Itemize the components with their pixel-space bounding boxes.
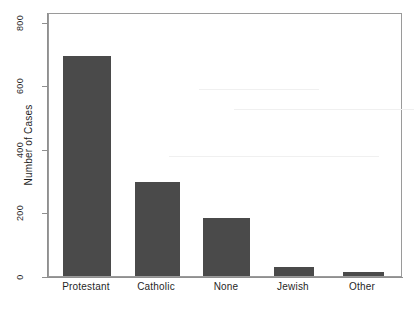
x-tick-label-catholic: Catholic bbox=[137, 281, 175, 292]
y-tick-label-0-container: 0 bbox=[0, 277, 40, 278]
y-tick-label-600: 600 bbox=[15, 78, 25, 94]
chart-screenshot: Number of Cases 800 600 400 200 0 bbox=[0, 0, 416, 310]
y-tick-label-600-container: 600 bbox=[0, 86, 40, 87]
bar-protestant bbox=[63, 56, 111, 276]
x-axis-line bbox=[48, 277, 403, 278]
plot-frame bbox=[48, 13, 402, 277]
y-tick-label-200-container: 200 bbox=[0, 213, 40, 214]
x-tick-label-protestant: Protestant bbox=[62, 281, 110, 292]
scan-artifact bbox=[169, 156, 379, 157]
bar-jewish bbox=[274, 267, 314, 276]
y-tick-label-0: 0 bbox=[15, 274, 25, 279]
plot-area bbox=[49, 14, 401, 276]
y-tick-label-200: 200 bbox=[15, 205, 25, 221]
y-tick-label-800: 800 bbox=[15, 15, 25, 31]
x-tick-label-jewish: Jewish bbox=[277, 281, 309, 292]
x-tick-label-other: Other bbox=[349, 281, 375, 292]
y-tick-label-800-container: 800 bbox=[0, 23, 40, 24]
y-tick-label-400: 400 bbox=[15, 142, 25, 158]
y-tick-label-400-container: 400 bbox=[0, 150, 40, 151]
scan-artifact bbox=[234, 109, 414, 110]
bar-other bbox=[343, 272, 384, 276]
scan-artifact bbox=[199, 89, 319, 90]
x-tick-label-none: None bbox=[214, 281, 239, 292]
bar-catholic bbox=[135, 182, 180, 276]
bar-none bbox=[203, 218, 250, 276]
